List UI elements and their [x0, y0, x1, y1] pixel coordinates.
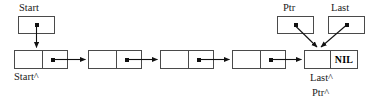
- node-3-data-cell: [161, 51, 189, 68]
- node-3-link-dot: [197, 58, 201, 62]
- node-4-link-dot: [269, 58, 273, 62]
- list-node-4: [232, 50, 286, 69]
- node-2-data-cell: [89, 51, 117, 68]
- list-node-2: [88, 50, 142, 69]
- ptr-pointer-box: [277, 16, 314, 34]
- list-node-5: NIL: [304, 50, 358, 69]
- node-1-link-dot: [51, 58, 55, 62]
- last-pointer-label: Last: [331, 3, 349, 14]
- nil-label: NIL: [335, 54, 353, 65]
- linked-list-diagram: Start Start^ NIL: [0, 0, 369, 105]
- list-node-1: [14, 50, 68, 69]
- node-2-link-dot: [125, 58, 129, 62]
- node-2-link-cell: [117, 51, 141, 68]
- ptr-pointer-label: Ptr: [283, 3, 295, 14]
- start-pointer-dot: [35, 23, 39, 27]
- list-node-3: [160, 50, 214, 69]
- node-5-data-cell: [305, 51, 331, 68]
- ptr-deref-label: Ptr^: [312, 88, 329, 99]
- last-pointer-box: [328, 16, 365, 34]
- last-pointer-dot: [345, 23, 349, 27]
- ptr-pointer-dot: [294, 23, 298, 27]
- node-5-link-cell: NIL: [331, 51, 357, 68]
- start-pointer-box: [18, 16, 55, 34]
- node-4-link-cell: [261, 51, 285, 68]
- node-3-link-cell: [189, 51, 213, 68]
- last-deref-label: Last^: [310, 73, 333, 84]
- start-deref-label: Start^: [14, 72, 39, 83]
- node-4-data-cell: [233, 51, 261, 68]
- node-1-link-cell: [43, 51, 67, 68]
- start-pointer-label: Start: [19, 3, 39, 14]
- node-1-data-cell: [15, 51, 43, 68]
